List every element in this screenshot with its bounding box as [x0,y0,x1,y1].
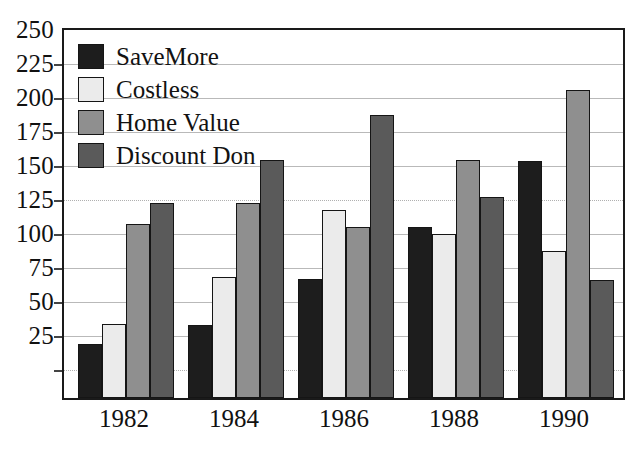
bar-savemore-1988 [408,227,432,398]
y-tick-label: 100 [16,221,54,246]
legend-item-savemore: SaveMore [78,40,308,73]
bar-discountdon-1988 [480,197,504,398]
bar-costless-1984 [212,277,236,398]
legend-label: SaveMore [116,44,219,69]
bar-costless-1982 [102,324,126,398]
legend-label: Home Value [116,110,240,135]
bar-savemore-1984 [188,325,212,398]
y-tick-label: 25 [29,323,54,348]
y-axis-labels: 250 225 200 175 150 125 100 75 50 25 [0,0,58,459]
bar-homevalue-1986 [346,227,370,398]
legend-item-home-value: Home Value [78,106,308,139]
x-tick-label: 1988 [429,404,479,434]
bar-homevalue-1990 [566,90,590,398]
legend-item-discount-don: Discount Don [78,139,308,172]
y-tick-label: 75 [29,255,54,280]
y-tick-label: 225 [16,51,54,76]
x-tick-label: 1986 [319,404,369,434]
legend-swatch-icon [78,110,104,135]
x-tick-label: 1982 [99,404,149,434]
legend-swatch-icon [78,77,104,102]
legend: SaveMore Costless Home Value Discount Do… [78,40,308,172]
bar-savemore-1990 [518,161,542,398]
y-tick-label: 200 [16,85,54,110]
bar-discountdon-1982 [150,203,174,398]
y-tick-label: 250 [16,17,54,42]
bar-homevalue-1982 [126,224,150,398]
bar-costless-1990 [542,251,566,398]
bar-savemore-1982 [78,344,102,398]
bar-costless-1986 [322,210,346,398]
y-tick-label: 50 [29,289,54,314]
bar-savemore-1986 [298,279,322,398]
bar-homevalue-1984 [236,203,260,398]
legend-swatch-icon [78,44,104,69]
plot-area: SaveMore Costless Home Value Discount Do… [62,28,625,400]
bar-discountdon-1990 [590,280,614,398]
bar-costless-1988 [432,234,456,398]
x-tick-label: 1984 [209,404,259,434]
bar-chart: 250 225 200 175 150 125 100 75 50 25 [0,0,639,459]
bar-discountdon-1986 [370,115,394,398]
legend-label: Costless [116,77,199,102]
bar-discountdon-1984 [260,160,284,398]
x-tick-label: 1990 [539,404,589,434]
x-axis-labels: 1982 1984 1986 1988 1990 [62,404,625,444]
y-tick-label: 175 [16,119,54,144]
legend-swatch-icon [78,143,104,168]
bar-homevalue-1988 [456,160,480,398]
legend-item-costless: Costless [78,73,308,106]
y-tick-label: 125 [16,187,54,212]
y-tick-label: 150 [16,153,54,178]
legend-label: Discount Don [116,143,256,168]
